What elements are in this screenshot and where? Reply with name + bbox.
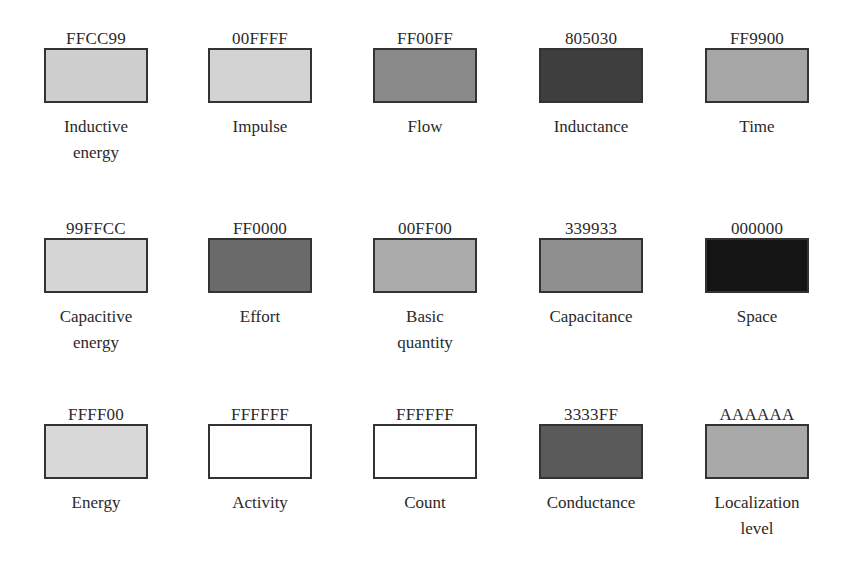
legend-entry: FF0000Effort [180,220,340,330]
color-swatch [44,424,148,479]
quantity-label: Inductance [511,114,671,140]
hex-code-label: FF0000 [180,220,340,238]
color-swatch [705,48,809,103]
quantity-label: Capacitance [511,304,671,330]
hex-code-label: FFFFFF [180,406,340,424]
hex-code-label: FF9900 [677,30,837,48]
quantity-label: Capacitive energy [16,304,176,356]
quantity-label: Localization level [677,490,837,542]
quantity-label: Flow [345,114,505,140]
legend-entry: 00FFFFImpulse [180,30,340,140]
hex-code-label: 805030 [511,30,671,48]
hex-code-label: 339933 [511,220,671,238]
color-swatch [373,238,477,293]
legend-entry: FFFFFFActivity [180,406,340,516]
color-swatch [373,48,477,103]
hex-code-label: FF00FF [345,30,505,48]
color-swatch [208,48,312,103]
quantity-label: Activity [180,490,340,516]
color-swatch [539,424,643,479]
legend-entry: 339933Capacitance [511,220,671,330]
quantity-label: Effort [180,304,340,330]
color-swatch [539,238,643,293]
legend-entry: 805030Inductance [511,30,671,140]
quantity-label: Time [677,114,837,140]
hex-code-label: FFFFFF [345,406,505,424]
color-swatch [705,424,809,479]
color-swatch [373,424,477,479]
hex-code-label: FFCC99 [16,30,176,48]
hex-code-label: 000000 [677,220,837,238]
quantity-label: Energy [16,490,176,516]
hex-code-label: 3333FF [511,406,671,424]
quantity-label: Impulse [180,114,340,140]
quantity-label: Basic quantity [345,304,505,356]
legend-entry: 3333FFConductance [511,406,671,516]
color-swatch [539,48,643,103]
quantity-label: Inductive energy [16,114,176,166]
legend-entry: 99FFCCCapacitive energy [16,220,176,356]
quantity-label: Space [677,304,837,330]
color-swatch [705,238,809,293]
hex-code-label: AAAAAA [677,406,837,424]
legend-entry: FFFFFFCount [345,406,505,516]
color-swatch [208,238,312,293]
color-swatch [208,424,312,479]
legend-entry: AAAAAALocalization level [677,406,837,542]
color-swatch [44,48,148,103]
hex-code-label: 99FFCC [16,220,176,238]
legend-entry: FFFF00Energy [16,406,176,516]
legend-entry: FF9900Time [677,30,837,140]
legend-entry: FF00FFFlow [345,30,505,140]
hex-code-label: 00FF00 [345,220,505,238]
hex-code-label: FFFF00 [16,406,176,424]
quantity-label: Conductance [511,490,671,516]
hex-code-label: 00FFFF [180,30,340,48]
color-swatch [44,238,148,293]
legend-entry: 000000Space [677,220,837,330]
legend-entry: FFCC99Inductive energy [16,30,176,166]
legend-entry: 00FF00Basic quantity [345,220,505,356]
quantity-label: Count [345,490,505,516]
